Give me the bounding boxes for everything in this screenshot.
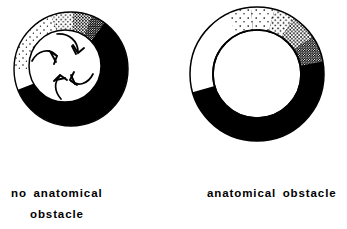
center-arrow-right [70, 72, 93, 85]
center-arrow-left [32, 51, 57, 64]
center-arrow-lower [54, 75, 67, 99]
left-ring-group [0, 0, 174, 180]
left-annulus-clip-group [0, 0, 174, 180]
left-inner-circle-outline [29, 30, 101, 102]
panel-no-anatomical-obstacle [0, 0, 174, 180]
caption-no-anatomical-obstacle-line1: no anatomical [11, 188, 103, 200]
caption-no-anatomical-obstacle-line2: obstacle [30, 209, 84, 221]
panel-anatomical-obstacle [174, 0, 347, 180]
caption-anatomical-obstacle: anatomical obstacle [207, 188, 337, 200]
central-anatomical-obstacle [214, 31, 300, 117]
figure-root: no anatomical obstacle anatomical obstac… [0, 0, 347, 229]
leading-circle-reentry-diagram [0, 0, 174, 180]
left-center-arrow-group [32, 34, 93, 99]
center-arrow-upper [57, 34, 84, 54]
right-ring-group [174, 0, 347, 180]
anatomical-obstacle-reentry-diagram [174, 0, 347, 180]
